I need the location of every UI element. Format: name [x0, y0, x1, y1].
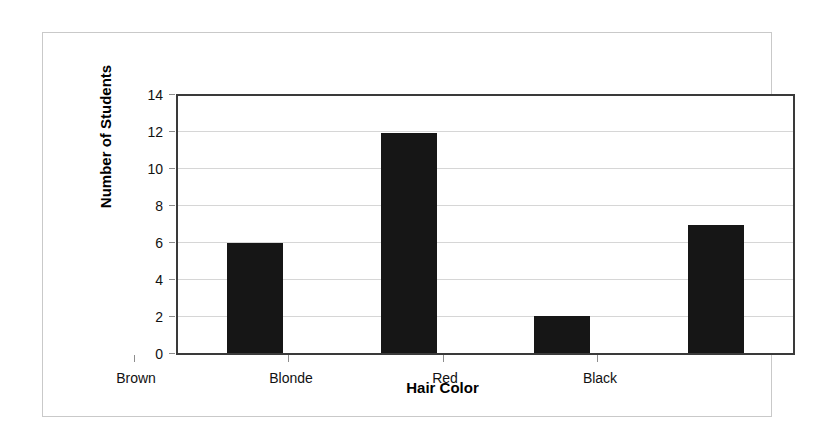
y-tick-mark-2: [169, 316, 175, 317]
y-tick-label-2: 2: [131, 310, 163, 324]
bars-layer: [178, 96, 793, 353]
y-axis-title: Number of Students: [97, 37, 114, 237]
plot-area: [176, 94, 795, 355]
chart-outer-frame: Number of Students 14 12 10 8 6 4 2 0: [42, 32, 772, 417]
y-tick-label-4: 4: [131, 273, 163, 287]
bar-slot-brown: [178, 96, 332, 353]
y-tick-mark-10: [169, 168, 175, 169]
y-tick-label-10: 10: [131, 162, 163, 176]
y-tick-mark-14: [169, 94, 175, 95]
bar-brown[interactable]: [227, 243, 283, 353]
bar-chart-figure: Number of Students 14 12 10 8 6 4 2 0: [0, 0, 815, 435]
bar-slot-red: [486, 96, 640, 353]
x-tick-mark-4: [597, 355, 598, 362]
bar-black[interactable]: [688, 225, 744, 354]
y-tick-label-12: 12: [131, 125, 163, 139]
bar-red[interactable]: [534, 316, 590, 353]
y-tick-label-0: 0: [131, 347, 163, 361]
x-axis-title: Hair Color: [133, 379, 752, 396]
y-tick-label-6: 6: [131, 236, 163, 250]
y-tick-mark-0: [169, 353, 175, 354]
y-tick-mark-8: [169, 205, 175, 206]
bar-slot-black: [639, 96, 793, 353]
y-tick-mark-12: [169, 131, 175, 132]
x-tick-mark-3: [443, 355, 444, 362]
y-tick-label-14: 14: [131, 88, 163, 102]
bar-slot-blonde: [332, 96, 486, 353]
x-tick-mark-2: [288, 355, 289, 362]
y-tick-mark-6: [169, 242, 175, 243]
y-tick-mark-4: [169, 279, 175, 280]
bar-blonde[interactable]: [381, 133, 437, 353]
x-tick-mark-1: [134, 355, 135, 362]
y-tick-label-8: 8: [131, 199, 163, 213]
